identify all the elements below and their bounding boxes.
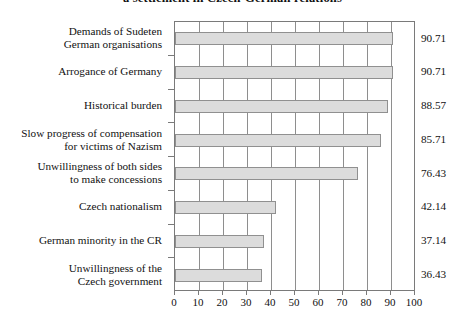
value-label: 37.14: [421, 234, 463, 246]
category-label-line: Unwillingness of both sides: [0, 160, 162, 173]
value-label-column: 90.7190.7188.5785.7176.4342.1437.1436.43: [421, 21, 465, 291]
value-label: 88.57: [421, 99, 463, 111]
category-label-line: for victims of Nazism: [0, 140, 162, 153]
category-label-line: Czech government: [0, 275, 162, 288]
bar: [175, 201, 276, 214]
x-axis-tick-label: 60: [313, 296, 324, 308]
x-axis-tick-label: 0: [171, 296, 177, 308]
gridline: [319, 22, 320, 290]
category-label: Unwillingness of both sidesto make conce…: [0, 160, 162, 185]
x-tick: [294, 291, 295, 295]
x-tick: [318, 291, 319, 295]
x-axis-tick-label: 30: [241, 296, 252, 308]
category-label: Czech nationalism: [0, 200, 162, 213]
category-label: Unwillingness of theCzech government: [0, 262, 162, 287]
gridline: [223, 22, 224, 290]
bar: [175, 100, 388, 113]
x-axis-tick-label: 90: [385, 296, 396, 308]
category-label: Arrogance of Germany: [0, 65, 162, 78]
value-label: 76.43: [421, 167, 463, 179]
bar: [175, 167, 358, 180]
bar: [175, 134, 381, 147]
value-label: 36.43: [421, 268, 463, 280]
category-label: Demands of SudetenGerman organisations: [0, 25, 162, 50]
category-label-line: Unwillingness of the: [0, 262, 162, 275]
gridline: [199, 22, 200, 290]
category-label-line: Historical burden: [0, 99, 162, 112]
category-tick: [168, 156, 174, 157]
category-tick: [168, 122, 174, 123]
x-tick: [366, 291, 367, 295]
x-tick: [342, 291, 343, 295]
gridline: [247, 22, 248, 290]
x-tick: [414, 291, 415, 295]
x-axis-tick-label: 100: [406, 296, 423, 308]
category-axis: Demands of SudetenGerman organisationsAr…: [0, 21, 166, 291]
gridline: [367, 22, 368, 290]
category-label: Slow progress of compensationfor victims…: [0, 127, 162, 152]
x-axis-tick-label: 20: [217, 296, 228, 308]
gridline: [343, 22, 344, 290]
x-axis-tick-label: 10: [193, 296, 204, 308]
x-tick: [390, 291, 391, 295]
bar: [175, 269, 262, 282]
chart-page: a settlement in Czech-German relations D…: [0, 0, 465, 321]
x-axis-tick-label: 40: [265, 296, 276, 308]
gridline: [295, 22, 296, 290]
x-axis-tick-label: 50: [289, 296, 300, 308]
x-tick: [246, 291, 247, 295]
category-label-line: Czech nationalism: [0, 200, 162, 213]
category-label-line: German organisations: [0, 38, 162, 51]
x-axis-tick-label: 80: [361, 296, 372, 308]
category-label-line: German minority in the CR: [0, 234, 162, 247]
chart-title: a settlement in Czech-German relations: [0, 0, 465, 6]
category-tick: [168, 190, 174, 191]
category-label-line: to make concessions: [0, 173, 162, 186]
value-label: 90.71: [421, 65, 463, 77]
value-label: 85.71: [421, 133, 463, 145]
category-label-line: Arrogance of Germany: [0, 65, 162, 78]
plot-area: [174, 21, 415, 291]
category-label: German minority in the CR: [0, 234, 162, 247]
x-axis-tick-label: 70: [337, 296, 348, 308]
x-tick: [222, 291, 223, 295]
value-label: 42.14: [421, 200, 463, 212]
category-label: Historical burden: [0, 99, 162, 112]
gridline: [391, 22, 392, 290]
category-tick: [168, 224, 174, 225]
gridline: [271, 22, 272, 290]
bar: [175, 235, 264, 248]
value-label: 90.71: [421, 32, 463, 44]
category-label-line: Demands of Sudeten: [0, 25, 162, 38]
category-tick: [168, 257, 174, 258]
x-tick: [270, 291, 271, 295]
bar: [175, 66, 393, 79]
category-tick: [168, 55, 174, 56]
x-tick: [198, 291, 199, 295]
x-tick: [174, 291, 175, 295]
category-tick: [168, 89, 174, 90]
category-label-line: Slow progress of compensation: [0, 127, 162, 140]
bar: [175, 32, 393, 45]
